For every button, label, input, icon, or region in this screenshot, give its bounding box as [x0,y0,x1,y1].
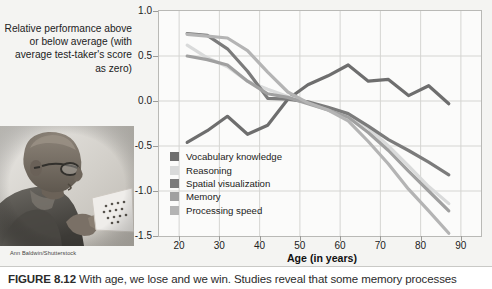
x-axis-tick-mark [219,236,220,241]
legend-label: Vocabulary knowledge [186,151,282,162]
y-axis-tick-label: 0.5 [118,50,152,61]
y-axis-tick-mark [153,191,158,192]
x-axis-tick-label: 80 [406,240,436,251]
x-axis-tick-label: 60 [325,240,355,251]
y-axis-tick-mark [153,11,158,12]
legend-label: Spatial visualization [186,178,270,189]
figure-caption-band: FIGURE 8.12 With age, we lose and we win… [0,267,492,289]
y-axis-tick-label: -1.5 [118,230,152,241]
photo-credit: Ann Baldwin/Shutterstock [10,250,76,256]
legend-swatch [170,179,179,188]
legend-swatch [170,166,179,175]
legend-label: Reasoning [186,165,232,176]
photo-elderly-man-reading [0,126,134,246]
x-axis-tick-label: 90 [446,240,476,251]
legend-label: Processing speed [186,205,262,216]
x-axis-tick-mark [340,236,341,241]
legend-item: Vocabulary knowledge [170,150,282,163]
y-axis-tick-mark [153,236,158,237]
x-axis-tick-label: 70 [365,240,395,251]
x-axis-tick-label: 30 [204,240,234,251]
y-axis-tick-label: 1.0 [118,5,152,16]
legend-item: Spatial visualization [170,177,282,190]
x-axis-tick-mark [461,236,462,241]
legend-swatch [170,152,179,161]
figure-caption-number: FIGURE 8.12 [8,273,76,285]
chart-legend: Vocabulary knowledgeReasoningSpatial vis… [170,150,282,217]
figure-caption: FIGURE 8.12 With age, we lose and we win… [8,273,457,285]
legend-swatch [170,192,179,201]
legend-item: Memory [170,190,282,203]
x-axis-tick-mark [300,236,301,241]
figure-container: Ann Baldwin/Shutterstock Relative perfor… [0,0,492,289]
y-axis-tick-label: -1.0 [118,185,152,196]
y-axis-tick-mark [153,146,158,147]
x-axis-tick-mark [380,236,381,241]
figure-caption-body: With age, we lose and we win. Studies re… [79,273,457,285]
x-axis-title: Age (in years) [258,252,386,264]
legend-item: Processing speed [170,204,282,217]
legend-label: Memory [186,191,221,202]
y-axis-tick-label: 0.0 [118,95,152,106]
y-axis-tick-label: -0.5 [118,140,152,151]
x-axis-tick-label: 20 [164,240,194,251]
x-axis-tick-mark [179,236,180,241]
y-axis-title: Relative performance above or below aver… [4,22,132,75]
x-axis-tick-label: 40 [245,240,275,251]
x-axis-tick-mark [260,236,261,241]
legend-swatch [170,206,179,215]
x-axis-tick-label: 50 [285,240,315,251]
y-axis-tick-mark [153,56,158,57]
x-axis-tick-mark [421,236,422,241]
y-axis-tick-mark [153,101,158,102]
legend-item: Reasoning [170,163,282,176]
